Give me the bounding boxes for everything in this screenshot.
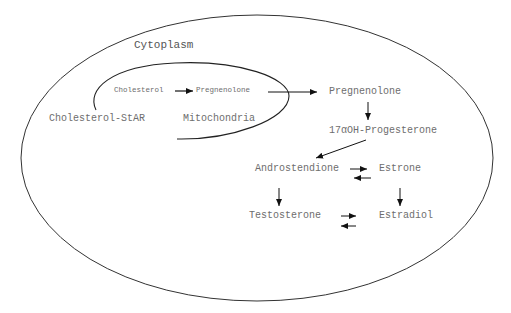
17oh-progesterone-label: 17αOH-Progesterone (329, 126, 437, 136)
pregnenolone-label: Pregnenolone (329, 87, 401, 97)
mitochondria-label: Mitochondria (183, 114, 255, 124)
estrone-label: Estrone (379, 164, 421, 174)
steroidogenesis-diagram: Cytoplasm Cholesterol Pregnenolone Chole… (0, 0, 511, 313)
mito-pregnenolone-label: Pregnenolone (196, 87, 250, 95)
testosterone-label: Testosterone (249, 211, 321, 221)
androstendione-label: Androstendione (255, 164, 339, 174)
mitochondria-boundary (94, 63, 289, 139)
estradiol-label: Estradiol (379, 211, 433, 221)
cytoplasm-label: Cytoplasm (134, 40, 193, 51)
cytoplasm-boundary (21, 15, 493, 301)
arrow-17ohp-to-androstendione (316, 140, 366, 158)
mito-cholesterol-label: Cholesterol (114, 87, 164, 95)
diagram-shapes (0, 0, 511, 313)
cholesterol-star-label: Cholesterol-StAR (49, 114, 145, 124)
